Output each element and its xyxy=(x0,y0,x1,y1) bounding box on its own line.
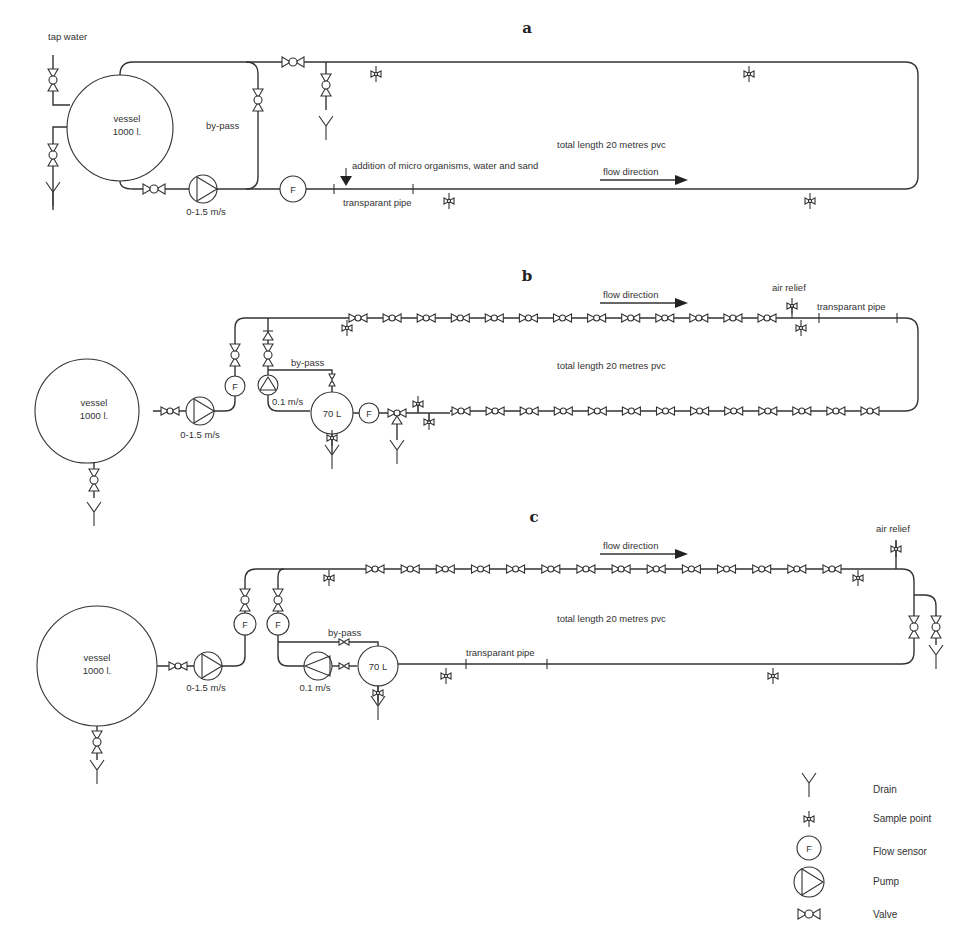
valve-icon xyxy=(263,344,273,366)
valve-icon xyxy=(682,565,700,573)
bypass-valve-icon xyxy=(253,89,263,111)
sample-point-icon xyxy=(796,320,806,336)
svg-text:F: F xyxy=(806,844,812,854)
bypass-label: by-pass xyxy=(291,357,325,368)
flow-sensor-icon: F xyxy=(234,613,256,635)
valve-icon xyxy=(485,314,503,322)
svg-text:Flow sensor: Flow sensor xyxy=(873,846,928,857)
valve-icon xyxy=(657,407,675,415)
legend-item-sample-point: Sample point xyxy=(804,811,932,827)
valve-icon xyxy=(486,407,504,415)
air-relief-label: air relief xyxy=(772,282,806,293)
sample-point-icon xyxy=(805,193,815,209)
svg-text:Sample point: Sample point xyxy=(873,813,932,824)
drain-icon xyxy=(90,760,104,784)
svg-text:F: F xyxy=(366,409,372,419)
pump-icon xyxy=(186,397,214,425)
valve-icon xyxy=(798,909,820,919)
total-length-label: total length 20 metres pvc xyxy=(557,360,666,371)
drain-valve-icon xyxy=(321,74,331,96)
sample-point-icon xyxy=(768,668,778,684)
flow-sensor-icon: F xyxy=(359,403,379,423)
valve-icon xyxy=(577,565,595,573)
vessel-drain-valve-icon xyxy=(89,469,99,491)
valve-icon xyxy=(691,407,709,415)
legend-item-drain: Drain xyxy=(802,773,897,797)
transparent-pipe-label: transparant pipe xyxy=(343,197,412,208)
vessel-label: vessel xyxy=(81,397,108,408)
total-length-label: total length 20 metres pvc xyxy=(557,139,666,150)
pump-inlet-valve-icon xyxy=(161,407,179,415)
drain-icon xyxy=(319,116,333,140)
vessel-volume-label: 1000 l. xyxy=(83,665,112,676)
vessel-label: vessel xyxy=(84,652,111,663)
sample-point-icon xyxy=(441,668,451,684)
valve-icon xyxy=(519,314,537,322)
small-pump-icon xyxy=(258,375,278,395)
pump-icon xyxy=(794,867,824,897)
pump-speed-label: 0-1.5 m/s xyxy=(186,682,226,693)
legend-item-pump: Pump xyxy=(794,867,900,897)
sample-point-icon xyxy=(373,685,383,701)
valve-icon xyxy=(827,407,845,415)
total-length-label: total length 20 metres pvc xyxy=(557,613,666,624)
vessel-label: vessel xyxy=(114,113,141,124)
bypass-label: by-pass xyxy=(206,120,240,131)
valve-icon xyxy=(588,314,606,322)
svg-text:F: F xyxy=(290,185,296,195)
three-way-valve-icon xyxy=(388,409,406,440)
panel-b: b vessel 1000 l. 0-1.5 m/s F by-pass xyxy=(35,267,918,526)
valve-icon xyxy=(909,616,919,638)
process-flow-diagram: a tap water vessel 1000 l. by-pass 0 xyxy=(0,0,963,941)
small-pump-speed-label: 0.1 m/s xyxy=(299,682,330,693)
valve-icon xyxy=(240,589,250,611)
main-valve-icon xyxy=(282,57,304,67)
flow-sensor-icon: F xyxy=(280,176,306,202)
valve-icon xyxy=(823,565,841,573)
flow-direction-label: flow direction xyxy=(603,166,658,177)
transparent-pipe-label: transparant pipe xyxy=(466,647,535,658)
valve-icon xyxy=(436,565,454,573)
panel-label-a: a xyxy=(522,19,532,37)
check-valve-icon xyxy=(263,331,273,340)
panel-label-b: b xyxy=(522,267,533,285)
valve-icon xyxy=(230,344,240,366)
valve-icon xyxy=(622,314,640,322)
legend: Drain Sample point F Flow sensor Pump Va… xyxy=(794,773,932,920)
valve-icon xyxy=(861,407,879,415)
pump-icon xyxy=(194,652,222,680)
panel-c: c vessel 1000 l. 0-1.5 m/s F F by-pass xyxy=(37,508,943,784)
flow-sensor-icon: F xyxy=(225,376,245,396)
valve-icon xyxy=(542,565,560,573)
svg-text:Valve: Valve xyxy=(873,909,898,920)
pump-inlet-valve-icon xyxy=(169,662,187,670)
small-vessel-label: 70 L xyxy=(323,408,342,419)
valve-icon xyxy=(647,565,665,573)
vessel-drain-valve-icon xyxy=(92,731,102,753)
tap-water-valve-icon xyxy=(48,69,58,91)
transparent-pipe-label: transparant pipe xyxy=(817,301,886,312)
drain-icon xyxy=(802,773,816,797)
valve-icon xyxy=(718,565,736,573)
valve-icon xyxy=(793,407,811,415)
air-relief-label: air relief xyxy=(876,523,910,534)
vessel-volume-label: 1000 l. xyxy=(113,126,142,137)
valve-icon xyxy=(656,314,674,322)
svg-text:F: F xyxy=(242,620,248,630)
small-pump-speed-label: 0.1 m/s xyxy=(272,396,303,407)
drain-icon xyxy=(390,440,404,464)
sample-point-icon xyxy=(324,570,334,586)
sample-point-icon xyxy=(444,193,454,209)
panel-label-c: c xyxy=(529,508,538,526)
valve-icon xyxy=(725,407,743,415)
addition-arrow-icon xyxy=(340,168,352,186)
valve-icon xyxy=(753,565,771,573)
svg-text:F: F xyxy=(275,620,281,630)
vessel-drain-valve-icon xyxy=(48,144,58,166)
valve-icon xyxy=(401,565,419,573)
valve-icon xyxy=(690,314,708,322)
valve-icon xyxy=(554,314,572,322)
drain-icon xyxy=(87,502,101,526)
drain-icon xyxy=(929,645,943,669)
pump-speed-label: 0-1.5 m/s xyxy=(186,206,226,217)
